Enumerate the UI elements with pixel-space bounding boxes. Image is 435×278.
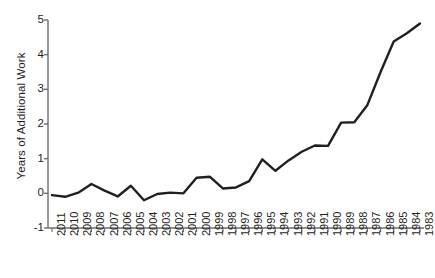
data-series-line [52,23,420,200]
axis-lines [48,20,424,228]
chart-container: Years of Additional Work -1012345 201120… [0,0,435,278]
plot-area [0,0,435,278]
